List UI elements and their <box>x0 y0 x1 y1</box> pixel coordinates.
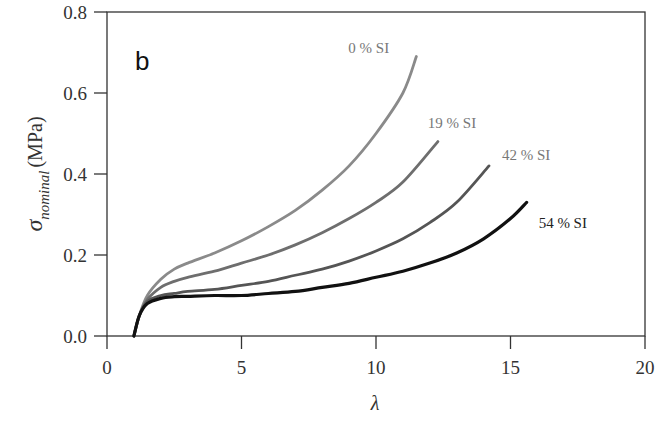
panel-label: b <box>135 46 149 76</box>
x-tick-label: 10 <box>367 357 386 378</box>
axis-ticks: 051015200.00.20.40.60.8 <box>63 2 654 378</box>
x-tick-label: 20 <box>636 357 655 378</box>
x-axis-label: λ <box>370 392 380 414</box>
series-label-1: 19 % SI <box>428 115 476 131</box>
plot-border <box>107 12 645 336</box>
y-axis-unit: (MPa) <box>24 116 47 167</box>
x-tick-label: 0 <box>102 357 112 378</box>
x-tick-label: 15 <box>501 357 520 378</box>
y-tick-label: 0.4 <box>63 164 87 185</box>
series-line-1 <box>134 142 438 336</box>
series-labels: 0 % SI19 % SI42 % SI54 % SI <box>348 40 587 232</box>
stress-strain-chart: 051015200.00.20.40.60.8 0 % SI19 % SI42 … <box>0 0 663 426</box>
y-tick-label: 0.2 <box>63 245 87 266</box>
series-label-0: 0 % SI <box>348 40 389 56</box>
series-line-2 <box>134 166 489 336</box>
plot-frame <box>107 12 645 336</box>
series-label-3: 54 % SI <box>539 215 587 231</box>
series-label-2: 42 % SI <box>502 147 550 163</box>
y-tick-label: 0.8 <box>63 2 87 23</box>
y-axis-label: σnominal(MPa) <box>21 116 52 231</box>
series-line-3 <box>134 202 527 336</box>
y-tick-label: 0.6 <box>63 83 87 104</box>
series-lines <box>134 57 527 336</box>
y-axis-subscript: nominal <box>36 171 52 220</box>
x-tick-label: 5 <box>237 357 247 378</box>
svg-text:σnominal(MPa): σnominal(MPa) <box>21 116 52 231</box>
y-tick-label: 0.0 <box>63 326 87 347</box>
